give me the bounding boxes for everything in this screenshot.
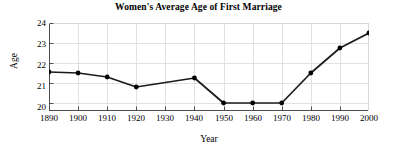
data-point [221, 101, 226, 106]
plot-area [49, 23, 369, 111]
chart-svg [49, 23, 369, 111]
chart-title: Women's Average Age of First Marriage [0, 2, 397, 12]
data-point [279, 101, 284, 106]
y-axis-tick-labels: 24 23 22 21 20 [22, 23, 46, 111]
data-point [49, 70, 51, 75]
y-tick-label: 20 [24, 103, 46, 112]
y-tick-label: 23 [24, 40, 46, 49]
data-point [308, 71, 313, 76]
data-point [134, 85, 139, 90]
x-axis-title: Year [49, 134, 369, 144]
plot-frame [49, 23, 369, 111]
chart-figure: Women's Average Age of First Marriage 24… [0, 0, 397, 156]
data-point [76, 71, 81, 76]
axis-tick-marks [50, 24, 370, 111]
data-point [250, 101, 255, 106]
y-tick-label: 21 [24, 82, 46, 91]
y-tick-label: 24 [24, 19, 46, 28]
x-tick-label: 2000 [352, 114, 386, 123]
x-tick-label: 1940 [177, 114, 211, 123]
data-point [338, 46, 343, 51]
x-axis-tick-labels: 1890 1900 1910 1920 1930 1940 1950 1960 … [49, 114, 369, 128]
y-tick-label: 22 [24, 61, 46, 70]
grid-lines [49, 23, 369, 111]
data-point [192, 76, 197, 81]
data-markers [49, 31, 369, 106]
data-point [105, 75, 110, 80]
y-axis-title: Age [9, 44, 19, 78]
